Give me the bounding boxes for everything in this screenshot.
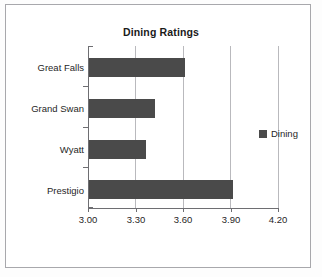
- chart-legend: Dining: [259, 128, 298, 139]
- category-label-prestigio: Prestigio: [0, 185, 84, 196]
- xtick-3-90: [231, 208, 232, 212]
- category-axis-labels: Great Falls Grand Swan Wyatt Prestigio: [0, 46, 84, 208]
- category-label-grand-swan: Grand Swan: [0, 103, 84, 114]
- gridline-4-20: [278, 46, 279, 208]
- category-tick-3: [83, 167, 88, 168]
- bar-wyatt: [89, 140, 146, 159]
- chart-title: Dining Ratings: [0, 26, 322, 38]
- bar-prestigio: [89, 180, 233, 199]
- xtick-label-4-20: 4.20: [258, 214, 298, 225]
- xtick-label-3-60: 3.60: [163, 214, 203, 225]
- category-tick-1: [83, 86, 88, 87]
- category-label-great-falls: Great Falls: [0, 62, 84, 73]
- plot-area: [88, 46, 278, 208]
- chart-page: Dining Ratings Great Falls Grand Swan Wy…: [0, 0, 322, 277]
- xtick-label-3-30: 3.30: [116, 214, 156, 225]
- legend-swatch-dining: [259, 130, 267, 138]
- xtick-4-20: [278, 208, 279, 212]
- axis-cap-top: [88, 46, 93, 47]
- xtick-3-30: [136, 208, 137, 212]
- xtick-3-00: [88, 208, 89, 212]
- xtick-3-60: [183, 208, 184, 212]
- category-tick-2: [83, 127, 88, 128]
- legend-label-dining: Dining: [271, 128, 298, 139]
- xtick-label-3-00: 3.00: [68, 214, 108, 225]
- xtick-label-3-90: 3.90: [211, 214, 251, 225]
- bar-great-falls: [89, 58, 185, 77]
- category-label-wyatt: Wyatt: [0, 144, 84, 155]
- bar-grand-swan: [89, 99, 155, 118]
